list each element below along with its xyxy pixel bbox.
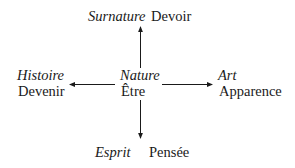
node-left-plain: Devenir xyxy=(18,83,65,99)
node-right-italic: Art xyxy=(218,67,237,83)
node-right-plain: Apparence xyxy=(219,83,282,99)
node-center-plain: Être xyxy=(121,83,145,99)
node-center-italic: Nature xyxy=(120,67,160,83)
node-left-italic: Histoire xyxy=(17,67,64,83)
node-bottom-plain: Pensée xyxy=(149,144,189,160)
node-top-italic: Surnature xyxy=(88,8,145,24)
node-bottom-italic: Esprit xyxy=(95,144,130,160)
node-top-plain: Devoir xyxy=(151,8,191,24)
